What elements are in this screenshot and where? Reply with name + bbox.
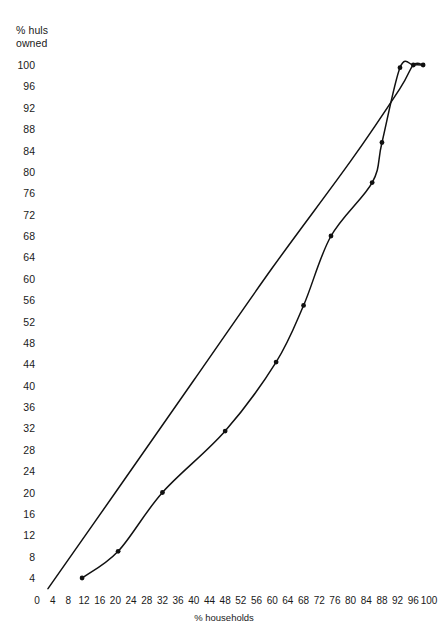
data-point-marker (370, 180, 375, 185)
data-point-marker (411, 63, 416, 68)
series-line-equality-line (48, 63, 423, 588)
data-point-marker (329, 234, 334, 239)
data-point-marker (274, 360, 279, 365)
plot-area (0, 0, 448, 630)
x-axis-title: % households (0, 612, 448, 623)
data-point-marker (380, 140, 385, 145)
data-point-marker (80, 576, 85, 581)
data-point-marker (398, 65, 403, 70)
data-point-marker (160, 490, 165, 495)
data-point-marker (421, 63, 426, 68)
data-point-marker (223, 429, 228, 434)
data-point-marker (116, 549, 121, 554)
data-point-marker (301, 303, 306, 308)
series-line-lorenz-curve (82, 61, 423, 578)
lorenz-curve-chart: % huls owned 481216202428323640444852566… (0, 0, 448, 630)
